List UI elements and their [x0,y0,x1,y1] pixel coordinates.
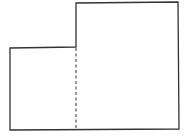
l-shape-outline [10,2,179,130]
diagram-canvas [0,0,187,138]
